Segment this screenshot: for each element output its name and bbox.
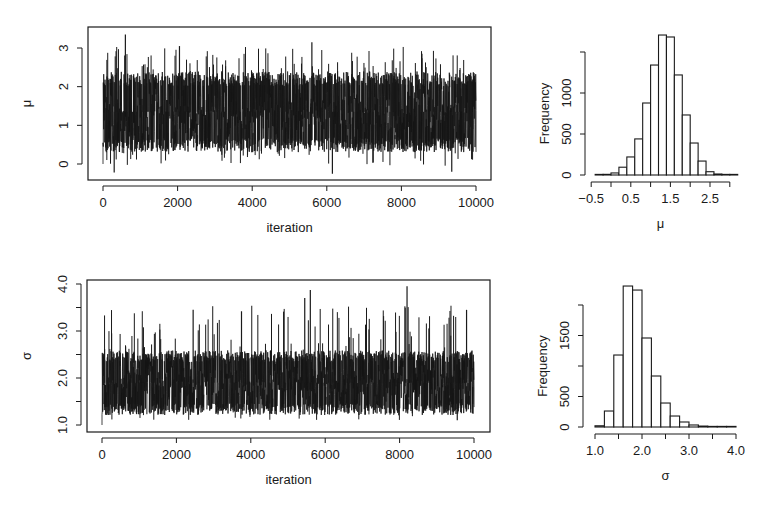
histogram-bar <box>698 161 706 175</box>
x-tick-label: 4.0 <box>727 443 745 458</box>
mu-trace-plot: 0200040006000800010000iteration0123μ <box>19 27 494 235</box>
x-axis-label: σ <box>661 468 669 483</box>
x-tick-label: 6000 <box>312 195 341 210</box>
x-tick-label: −0.5 <box>578 191 604 206</box>
histogram-bar <box>611 173 619 175</box>
x-tick-label: 0.5 <box>622 191 640 206</box>
x-tick-label: 1.0 <box>586 443 604 458</box>
histogram-bar <box>614 355 623 427</box>
histogram-bar <box>722 174 730 175</box>
sigma-trace-plot: 0200040006000800010000iteration1.02.03.0… <box>19 275 492 487</box>
histogram-bar <box>708 426 717 427</box>
x-tick-label: 0 <box>99 195 106 210</box>
y-axis-label: σ <box>19 352 34 360</box>
x-tick-label: 2000 <box>163 195 192 210</box>
histogram-bar <box>659 35 667 175</box>
histogram-bar <box>642 338 651 427</box>
y-tick-label: 0 <box>56 160 71 167</box>
histogram-bar <box>727 426 736 427</box>
histogram-bar <box>595 426 604 427</box>
histogram-bar <box>643 103 651 175</box>
y-tick-label: 1500 <box>557 321 572 350</box>
y-tick-label: 3.0 <box>55 322 70 340</box>
mcmc-diagnostics-figure: 0200040006000800010000iteration0123μ −0.… <box>0 0 766 513</box>
sigma-histogram: 1.02.03.04.0σ05001500Frequency <box>535 286 745 483</box>
histogram-bar <box>635 139 643 175</box>
x-tick-label: 2.5 <box>701 191 719 206</box>
y-tick-label: 4.0 <box>55 275 70 293</box>
histogram-bar <box>706 172 714 175</box>
x-tick-label: 6000 <box>311 447 340 462</box>
histogram-bar <box>619 167 627 175</box>
mu-histogram: −0.50.51.52.5μ05001000Frequency <box>537 35 738 231</box>
trace-line <box>103 71 476 164</box>
x-tick-label: 4000 <box>236 447 265 462</box>
histogram-bar <box>674 75 682 175</box>
histogram-bar <box>595 174 603 175</box>
histogram-bar <box>680 422 689 427</box>
y-axis-label: Frequency <box>537 82 552 144</box>
y-tick-label: 1 <box>56 122 71 129</box>
histogram-bar <box>714 174 722 175</box>
histogram-bar <box>604 411 613 427</box>
x-axis-label: iteration <box>265 472 311 487</box>
histogram-bar <box>651 65 659 175</box>
y-tick-label: 2 <box>56 83 71 90</box>
histogram-bar <box>690 143 698 175</box>
histogram-bar <box>661 403 670 427</box>
histogram-bar <box>603 174 611 175</box>
x-axis-label: iteration <box>266 220 312 235</box>
histogram-bar <box>623 286 632 427</box>
x-tick-label: 2000 <box>162 447 191 462</box>
y-axis-label: Frequency <box>535 335 550 397</box>
histogram-bar <box>730 174 738 175</box>
y-tick-label: 2.0 <box>55 369 70 387</box>
x-tick-label: 10000 <box>456 447 492 462</box>
x-tick-label: 0 <box>98 447 105 462</box>
y-tick-label: 0 <box>559 171 574 178</box>
y-tick-label: 0 <box>557 423 572 430</box>
x-tick-label: 1.5 <box>661 191 679 206</box>
x-tick-label: 8000 <box>387 195 416 210</box>
y-tick-label: 500 <box>559 123 574 145</box>
histogram-bar <box>717 426 726 427</box>
y-tick-label: 1000 <box>559 79 574 108</box>
histogram-bar <box>682 115 690 175</box>
histogram-bar <box>627 157 635 175</box>
y-tick-label: 1.0 <box>55 416 70 434</box>
histogram-bar <box>633 290 642 427</box>
x-tick-label: 4000 <box>238 195 267 210</box>
x-axis-label: μ <box>657 216 665 231</box>
y-tick-label: 500 <box>557 386 572 408</box>
histogram-bar <box>651 376 660 427</box>
histogram-bar <box>698 426 707 427</box>
x-tick-label: 8000 <box>385 447 414 462</box>
x-tick-label: 2.0 <box>633 443 651 458</box>
y-tick-label: 3 <box>56 44 71 51</box>
histogram-bar <box>689 425 698 427</box>
histogram-bar <box>666 37 674 175</box>
histogram-bar <box>670 416 679 427</box>
x-tick-label: 3.0 <box>680 443 698 458</box>
y-axis-label: μ <box>19 100 34 108</box>
x-tick-label: 10000 <box>458 195 494 210</box>
